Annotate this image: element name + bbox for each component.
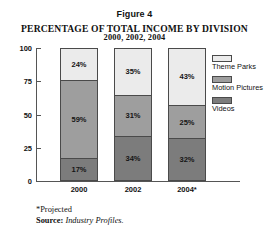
bar-segment-theme-parks-2000[interactable]: 24% — [60, 48, 98, 80]
source-line: Source: Industry Profiles. — [36, 216, 124, 225]
chart-legend: Theme Parks Motion Pictures Videos — [212, 55, 269, 118]
bar-segment-videos-2004[interactable]: 32% — [168, 138, 206, 181]
bar-value-label: 25% — [179, 119, 194, 127]
bar-value-label: 24% — [71, 61, 86, 69]
bar-segment-theme-parks-2002[interactable]: 35% — [114, 48, 152, 95]
source-prefix: Source: — [36, 216, 63, 225]
bar-value-label: 35% — [125, 68, 140, 76]
bar-segment-motion-pictures-2000[interactable]: 59% — [60, 80, 98, 158]
y-tick-label-75: 75 — [24, 77, 32, 86]
bar-2002[interactable]: 35% 31% 34% — [114, 48, 152, 181]
plot-area: 100 75 50 25 0 24% 59% 17% — [36, 48, 240, 182]
bar-value-label: 59% — [71, 116, 86, 124]
y-tick-label-100: 100 — [19, 44, 32, 53]
footnote-projected: *Projected — [36, 205, 72, 214]
legend-swatch-videos-icon — [212, 97, 232, 104]
legend-item-theme-parks[interactable]: Theme Parks — [212, 55, 269, 71]
x-axis-label-2004: 2004* — [168, 185, 206, 194]
bar-segment-videos-2002[interactable]: 34% — [114, 136, 152, 181]
figure-container: Figure 4 PERCENTAGE OF TOTAL INCOME BY D… — [0, 0, 269, 236]
bar-2000[interactable]: 24% 59% 17% — [60, 48, 98, 181]
bar-segment-videos-2000[interactable]: 17% — [60, 158, 98, 181]
x-axis-line — [36, 181, 240, 182]
chart-subtitle: 2000, 2002, 2004 — [0, 33, 269, 42]
bar-value-label: 43% — [179, 73, 194, 81]
legend-swatch-motion-pictures-icon — [212, 76, 232, 83]
bar-value-label: 34% — [125, 155, 140, 163]
x-axis-label-2000: 2000 — [60, 185, 98, 194]
bar-segment-motion-pictures-2004[interactable]: 25% — [168, 105, 206, 138]
y-tick-label-0: 0 — [28, 177, 32, 186]
legend-swatch-theme-parks-icon — [212, 55, 232, 62]
bar-segment-theme-parks-2004[interactable]: 43% — [168, 48, 206, 105]
figure-number: Figure 4 — [0, 9, 269, 19]
y-tick-label-25: 25 — [24, 143, 32, 152]
legend-item-motion-pictures[interactable]: Motion Pictures — [212, 76, 269, 92]
bar-value-label: 32% — [179, 156, 194, 164]
bar-2004[interactable]: 43% 25% 32% — [168, 48, 206, 181]
y-tick-label-50: 50 — [24, 110, 32, 119]
legend-label-theme-parks: Theme Parks — [212, 63, 269, 71]
source-value: Industry Profiles. — [65, 216, 123, 225]
bar-segment-motion-pictures-2002[interactable]: 31% — [114, 95, 152, 136]
legend-label-videos: Videos — [212, 105, 269, 113]
bar-value-label: 17% — [71, 166, 86, 174]
legend-label-motion-pictures: Motion Pictures — [212, 84, 269, 92]
x-axis-label-2002: 2002 — [114, 185, 152, 194]
bar-value-label: 31% — [125, 112, 140, 120]
legend-item-videos[interactable]: Videos — [212, 97, 269, 113]
